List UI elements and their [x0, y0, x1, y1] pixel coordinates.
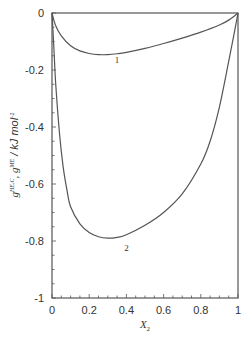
x-axis-title-subscript: 2	[147, 325, 151, 333]
chart: 00.20.40.60.81 0-0.2-0.4-0.6-0.8-1 12 X2…	[0, 0, 252, 345]
y-tick-label: -0.4	[25, 121, 44, 133]
curve-labels: 12	[115, 55, 129, 253]
y-tick-label: -0.2	[25, 64, 44, 76]
curve-2	[52, 13, 238, 238]
curve-label-2: 2	[124, 243, 129, 253]
x-tick-label: 0.4	[119, 304, 134, 316]
data-curves	[52, 13, 238, 238]
x-tick-label: 0.6	[156, 304, 171, 316]
axis-ticks	[52, 13, 238, 298]
x-axis-title: X2	[139, 318, 151, 333]
y-axis-title: gHE,C, gME / kJ mol-1	[8, 113, 20, 198]
x-tick-label: 0.2	[82, 304, 97, 316]
x-tick-label: 1	[235, 304, 241, 316]
plot-border	[52, 13, 238, 298]
y-tick-label: -1	[34, 292, 44, 304]
x-tick-label: 0	[49, 304, 55, 316]
curve-1	[52, 13, 238, 55]
y-tick-label: 0	[38, 7, 44, 19]
x-tick-labels: 00.20.40.60.81	[49, 304, 241, 316]
plot-frame	[52, 13, 238, 298]
x-tick-label: 0.8	[193, 304, 208, 316]
y-tick-labels: 0-0.2-0.4-0.6-0.8-1	[25, 7, 44, 304]
curve-label-1: 1	[115, 55, 120, 65]
y-tick-label: -0.6	[25, 178, 44, 190]
y-tick-label: -0.8	[25, 235, 44, 247]
